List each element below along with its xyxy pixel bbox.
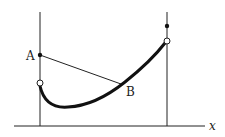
right-open-circle bbox=[164, 38, 170, 44]
diagram-canvas: x A B bbox=[0, 0, 225, 137]
left-open-circle bbox=[37, 80, 43, 86]
function-curve bbox=[40, 43, 165, 107]
point-b-label: B bbox=[126, 85, 135, 99]
point-a-label: A bbox=[25, 49, 35, 63]
segment-ab bbox=[40, 55, 121, 84]
right-filled-dot bbox=[165, 24, 169, 28]
point-a-dot bbox=[38, 53, 42, 57]
x-axis-label: x bbox=[209, 119, 216, 133]
